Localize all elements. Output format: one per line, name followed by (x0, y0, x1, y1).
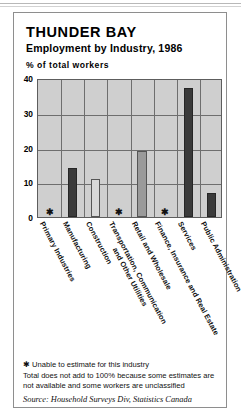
y-axis-unit-label: % of total workers (26, 60, 109, 70)
plot-area: ✱✱✱ (37, 79, 222, 218)
bar-public-administration[interactable] (207, 193, 216, 217)
footnotes-block: ✱ Unable to estimate for this industry T… (23, 360, 219, 405)
gridline-10 (38, 184, 221, 185)
source-line: Source: Household Surveys Div, Statistic… (23, 394, 219, 405)
column-divider-4 (131, 80, 132, 217)
plot-wrapper: ✱✱✱ 010203040 (37, 79, 222, 218)
scan-rule-secondary (0, 6, 241, 7)
y-tick-label-30: 30 (24, 109, 33, 119)
category-label-line: and Other Utilities (99, 224, 161, 329)
scan-rule-top (0, 3, 241, 4)
category-label-public-administration: Public Administration (199, 220, 241, 293)
column-divider-5 (154, 80, 155, 217)
column-divider-7 (200, 80, 201, 217)
bar-manufacturing[interactable] (68, 168, 77, 217)
title-block: THUNDER BAY Employment by Industry, 1986 (26, 24, 222, 55)
chart-subtitle: Employment by Industry, 1986 (26, 42, 222, 55)
footnote-asterisk: ✱ Unable to estimate for this industry (23, 360, 219, 370)
category-label-services: Services (176, 220, 199, 252)
unavailable-marker-transportation-communication-and-other-utilities: ✱ (115, 209, 123, 216)
column-divider-2 (84, 80, 85, 217)
y-tick-label-20: 20 (24, 144, 33, 154)
y-tick-label-10: 10 (24, 178, 33, 188)
y-tick-label-40: 40 (24, 74, 33, 84)
bar-retail-and-wholesale[interactable] (137, 151, 146, 217)
bar-services[interactable] (184, 88, 193, 217)
page-title: THUNDER BAY (26, 24, 222, 40)
category-label-line: Services (176, 220, 199, 252)
column-divider-1 (61, 80, 62, 217)
column-divider-6 (177, 80, 178, 217)
unavailable-marker-primary-industries: ✱ (46, 209, 54, 216)
column-divider-3 (107, 80, 108, 217)
x-axis-category-labels: Primary IndustriesManufacturingConstruct… (37, 220, 222, 350)
gridline-30 (38, 115, 221, 116)
footnote-total: Total does not add to 100% because some … (23, 371, 219, 391)
y-tick-label-0: 0 (28, 213, 33, 223)
bar-construction[interactable] (91, 179, 100, 217)
gridline-20 (38, 150, 221, 151)
unavailable-marker-finance-insurance-and-real-estate: ✱ (161, 209, 169, 216)
category-label-line: Public Administration (199, 220, 241, 293)
